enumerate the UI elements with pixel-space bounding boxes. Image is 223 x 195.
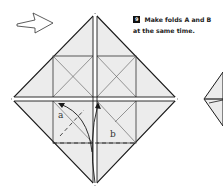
fold-b-label: b: [110, 129, 116, 139]
step-instruction: 9Make folds A and B at the same time.: [133, 14, 223, 36]
folded-square-diamond: [12, 14, 177, 185]
hollow-arrow-icon: [17, 13, 53, 33]
step-number-badge: 9: [133, 16, 140, 23]
instruction-line-2: at the same time.: [133, 25, 223, 36]
fold-a-label: a: [58, 110, 63, 120]
next-step-diagram-partial: [204, 72, 223, 126]
instruction-line-1: Make folds A and B: [144, 16, 211, 23]
